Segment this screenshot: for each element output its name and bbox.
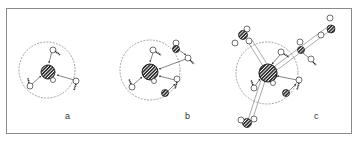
solvent-molecule [162, 84, 176, 97]
water-molecule [277, 76, 302, 90]
central-ion [41, 65, 55, 79]
solvent-molecule [318, 15, 335, 38]
solvent-molecule [232, 26, 252, 46]
water-molecule [27, 76, 41, 89]
water-molecule [129, 77, 142, 90]
panel-b [120, 40, 194, 100]
panel-label-a: a [65, 111, 70, 121]
water-molecule [57, 75, 79, 90]
solvation-diagram [0, 0, 357, 144]
water-molecule [159, 76, 180, 89]
central-ion [259, 64, 277, 82]
solvent-molecule [238, 116, 257, 128]
water-molecule [150, 47, 161, 62]
panel-label-c: c [314, 111, 319, 121]
panel-a [19, 42, 79, 98]
hydrogen-atom [152, 79, 157, 84]
hydrogen-atom [51, 78, 56, 83]
water-molecule [49, 47, 60, 63]
panel-label-b: b [185, 111, 190, 121]
solvent-molecule [283, 84, 297, 97]
panel-c [232, 15, 335, 128]
central-ion [142, 64, 158, 80]
water-molecule [159, 55, 194, 69]
hydrogen-atom [271, 81, 276, 86]
water-molecule [251, 79, 260, 91]
